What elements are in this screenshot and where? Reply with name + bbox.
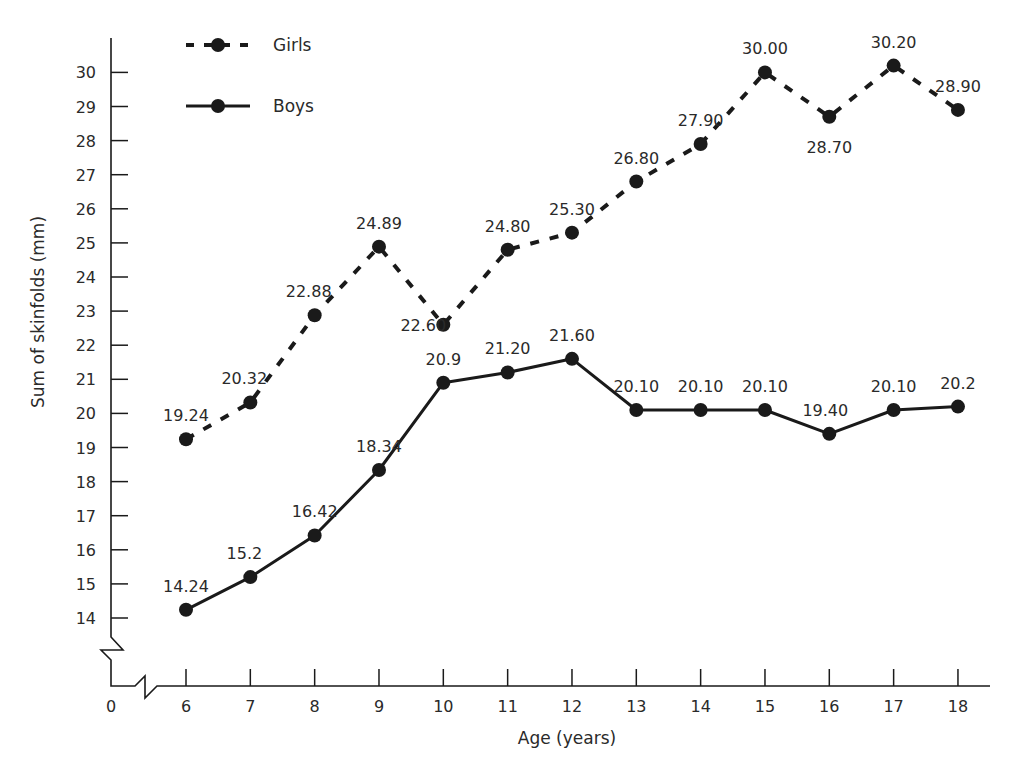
boys-data-label: 21.20 (485, 339, 531, 358)
boys-point-marker (501, 365, 515, 379)
boys-data-label: 21.60 (549, 326, 595, 345)
y-tick-label: 17 (76, 507, 96, 526)
boys-point-marker (243, 570, 257, 584)
x-tick-label: 10 (433, 697, 453, 716)
girls-point-marker (243, 395, 257, 409)
girls-point-marker (629, 175, 643, 189)
girls-point-marker (758, 65, 772, 79)
y-tick-label: 16 (76, 541, 96, 560)
boys-data-label: 18.34 (356, 437, 402, 456)
skinfolds-line-chart: 1415161718192021222324252627282930 06789… (0, 0, 1012, 769)
girls-data-label: 28.70 (806, 138, 852, 157)
girls-data-label: 27.90 (678, 111, 724, 130)
x-axis-ticks: 06789101112131415161718 (106, 669, 968, 716)
boys-point-marker (629, 403, 643, 417)
y-tick-label: 28 (76, 132, 96, 151)
x-tick-label: 13 (626, 697, 646, 716)
girls-point-marker (372, 240, 386, 254)
y-tick-label: 15 (76, 575, 96, 594)
x-axis-title: Age (years) (518, 728, 616, 748)
boys-data-label: 20.2 (940, 374, 976, 393)
girls-data-label: 30.00 (742, 39, 788, 58)
boys-data-label: 20.10 (742, 377, 788, 396)
girls-point-marker (565, 226, 579, 240)
x-tick-label: 14 (690, 697, 710, 716)
x-tick-label: 15 (755, 697, 775, 716)
boys-data-label: 20.10 (678, 377, 724, 396)
y-tick-label: 29 (76, 98, 96, 117)
x-tick-label: 17 (883, 697, 903, 716)
girls-point-marker (501, 243, 515, 257)
legend-label-girls: Girls (273, 35, 312, 55)
y-tick-label: 25 (76, 234, 96, 253)
x-tick-label: 7 (245, 697, 255, 716)
girls-data-label: 20.32 (221, 369, 267, 388)
legend: Girls Boys (186, 35, 314, 116)
girls-point-marker (694, 137, 708, 151)
x-tick-label: 11 (497, 697, 517, 716)
y-tick-label: 26 (76, 200, 96, 219)
girls-data-label: 28.90 (935, 77, 981, 96)
x-tick-label: 18 (948, 697, 968, 716)
boys-data-label: 20.10 (871, 377, 917, 396)
girls-data-label: 26.80 (613, 149, 659, 168)
x-tick-label: 12 (562, 697, 582, 716)
x-tick-label: 9 (374, 697, 384, 716)
x-tick-label: 16 (819, 697, 839, 716)
y-tick-label: 27 (76, 166, 96, 185)
boys-data-label: 19.40 (802, 401, 848, 420)
girls-data-label: 19.24 (163, 406, 209, 425)
girls-data-label: 24.89 (356, 214, 402, 233)
boys-line (186, 359, 958, 610)
girls-point-marker (887, 59, 901, 73)
y-tick-label: 22 (76, 336, 96, 355)
boys-point-marker (694, 403, 708, 417)
boys-point-marker (308, 528, 322, 542)
boys-data-label: 20.9 (426, 350, 462, 369)
y-tick-label: 20 (76, 404, 96, 423)
legend-boys-marker-icon (211, 99, 225, 113)
boys-point-marker (565, 352, 579, 366)
legend-item-boys: Boys (186, 96, 314, 116)
boys-point-marker (822, 427, 836, 441)
axes (101, 38, 990, 698)
axis-lines (101, 38, 990, 698)
boys-data-label: 20.10 (613, 377, 659, 396)
series-girls: 19.2420.3222.8824.8922.6024.8025.3026.80… (163, 33, 981, 447)
boys-data-label: 15.2 (227, 544, 263, 563)
y-tick-label: 24 (76, 268, 96, 287)
x-tick-label: 6 (181, 697, 191, 716)
legend-label-boys: Boys (273, 96, 314, 116)
girls-data-label: 25.30 (549, 200, 595, 219)
boys-data-label: 16.42 (292, 502, 338, 521)
x-tick-label: 0 (106, 697, 116, 716)
series-boys: 14.2415.216.4218.3420.921.2021.6020.1020… (163, 326, 976, 617)
y-axis-ticks: 1415161718192021222324252627282930 (76, 63, 128, 628)
boys-point-marker (179, 603, 193, 617)
y-tick-label: 23 (76, 302, 96, 321)
boys-data-label: 14.24 (163, 577, 209, 596)
y-tick-label: 18 (76, 473, 96, 492)
x-tick-label: 8 (310, 697, 320, 716)
y-tick-label: 19 (76, 439, 96, 458)
girls-point-marker (822, 110, 836, 124)
legend-girls-marker-icon (211, 38, 225, 52)
y-tick-label: 14 (76, 609, 96, 628)
y-axis-title: Sum of skinfolds (mm) (28, 216, 48, 408)
girls-point-marker (951, 103, 965, 117)
boys-point-marker (951, 400, 965, 414)
girls-data-label: 30.20 (871, 33, 917, 52)
legend-item-girls: Girls (186, 35, 312, 55)
girls-point-marker (308, 308, 322, 322)
y-tick-label: 30 (76, 63, 96, 82)
boys-point-marker (436, 376, 450, 390)
girls-data-label: 22.88 (286, 282, 332, 301)
boys-point-marker (887, 403, 901, 417)
y-tick-label: 21 (76, 370, 96, 389)
girls-line (186, 66, 958, 440)
girls-data-label: 22.60 (400, 316, 446, 335)
girls-point-marker (179, 432, 193, 446)
girls-data-label: 24.80 (485, 217, 531, 236)
boys-point-marker (372, 463, 386, 477)
boys-point-marker (758, 403, 772, 417)
